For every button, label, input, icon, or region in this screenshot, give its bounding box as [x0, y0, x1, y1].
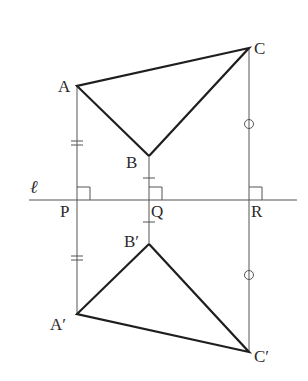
point-label-A: A [58, 77, 71, 96]
point-label-C-prime: C′ [254, 347, 269, 366]
right-angle-marker-R [249, 187, 262, 200]
right-angle-marker-Q [149, 187, 162, 200]
triangle-A-prime-B-prime-C-prime [77, 244, 249, 352]
line-l-label: ℓ [30, 177, 38, 197]
point-label-Q: Q [151, 202, 163, 221]
point-label-C: C [254, 39, 265, 58]
point-label-R: R [251, 202, 263, 221]
right-angle-marker-P [77, 187, 90, 200]
point-label-B: B [126, 153, 137, 172]
point-label-P: P [60, 202, 69, 221]
point-label-A-prime: A′ [50, 315, 66, 334]
reflection-diagram: ℓ A B C P Q R B′ A′ C′ [0, 0, 308, 381]
point-label-B-prime: B′ [124, 232, 139, 251]
triangle-ABC [77, 48, 249, 156]
